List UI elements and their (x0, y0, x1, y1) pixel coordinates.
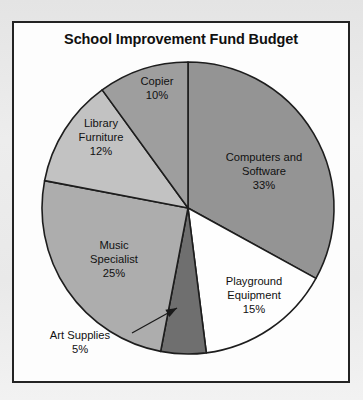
pie-slice-group (42, 62, 334, 354)
pie-chart: Computers andSoftware33%PlaygroundEquipm… (14, 23, 348, 381)
pie-label-art-supplies: Art Supplies5% (50, 329, 111, 355)
chart-frame: School Improvement Fund Budget Computers… (12, 21, 350, 383)
screenshot-root: School Improvement Fund Budget Computers… (0, 0, 363, 400)
